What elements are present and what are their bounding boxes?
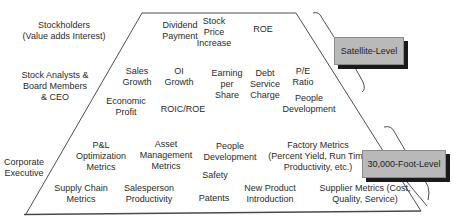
metric-label-roe: ROE bbox=[253, 24, 273, 35]
satellite-level-label: Satellite-Level bbox=[334, 37, 404, 65]
metric-label-stock-price-increase: Stock Price Increase bbox=[197, 16, 232, 49]
metric-label-supply-chain: Supply Chain Metrics bbox=[54, 183, 108, 205]
stakeholder-label-stock-analysts: Stock Analysts & Board Members & CEO bbox=[21, 70, 88, 103]
stakeholder-label-stockholders: Stockholders (Value adds Interest) bbox=[23, 20, 106, 42]
metric-label-earning-per-share: Earning per Share bbox=[211, 68, 242, 101]
metric-label-new-product-introduction: New Product Introduction bbox=[244, 183, 296, 205]
metric-label-safety: Safety bbox=[202, 170, 228, 181]
metric-label-sales-growth: Sales Growth bbox=[122, 66, 151, 88]
metric-label-salesperson-productivity: Salesperson Productivity bbox=[124, 183, 174, 205]
stakeholder-label-corporate-executive: Corporate Executive bbox=[4, 157, 44, 179]
metric-label-dividend-payment: Dividend Payment bbox=[162, 20, 198, 42]
thirty-thousand-foot-level-label: 30,000-Foot-Level bbox=[362, 150, 446, 178]
metric-label-debt-service-charge: Debt Service Charge bbox=[250, 68, 280, 101]
metric-label-pe-ratio: P/E Ratio bbox=[292, 66, 313, 88]
metric-label-asset-management: Asset Management Metrics bbox=[140, 139, 193, 172]
metric-label-oi-growth: OI Growth bbox=[164, 66, 193, 88]
metric-label-people-development-bottom: People Development bbox=[203, 141, 256, 163]
metric-label-roic-roe: ROIC/ROE bbox=[161, 104, 206, 115]
metric-label-pl-optimization: P&L Optimization Metrics bbox=[76, 140, 126, 173]
metric-label-supplier-metrics: Supplier Metrics (Cost, Quality, Service… bbox=[319, 183, 410, 205]
metric-label-patents: Patents bbox=[199, 193, 230, 204]
trapezoid-bottom-edge bbox=[24, 211, 421, 215]
metric-label-people-development-top: People Development bbox=[282, 93, 335, 115]
metrics-hierarchy-diagram: Stockholders (Value adds Interest)Stock … bbox=[0, 0, 464, 224]
metric-label-economic-profit: Economic Profit bbox=[106, 96, 146, 118]
metric-label-factory-metrics: Factory Metrics (Percent Yield, Run Time… bbox=[268, 140, 368, 173]
